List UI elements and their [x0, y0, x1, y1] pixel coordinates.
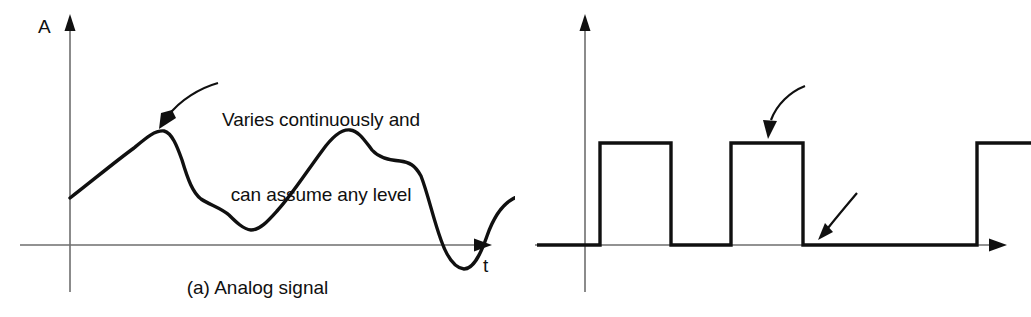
varies-continuously-annotation: Varies continuously and can assume any l…	[222, 57, 420, 257]
analog-y-axis-label: A	[38, 16, 51, 38]
analog-x-axis-label: t	[483, 255, 488, 277]
high-level-arrow-icon	[771, 86, 805, 120]
signal-comparison-figure: A t Varies continuously and can assume a…	[0, 0, 1031, 317]
analog-panel-caption: (a) Analog signal	[0, 277, 515, 299]
low-level-arrow-icon	[828, 193, 857, 228]
varies-continuously-line-1: Varies continuously and	[222, 107, 420, 132]
high-level-arrowhead-icon	[763, 120, 777, 139]
varies-continuously-arrowhead-icon	[159, 110, 176, 129]
varies-continuously-line-2: can assume any level	[222, 182, 420, 207]
digital-annotation-arrow-layer	[515, 0, 1031, 317]
digital-signal-panel: A t High level, “1” Low level, “0” (b) D…	[515, 0, 1031, 317]
analog-signal-panel: A t Varies continuously and can assume a…	[0, 0, 515, 317]
varies-continuously-arrow-icon	[168, 83, 218, 116]
